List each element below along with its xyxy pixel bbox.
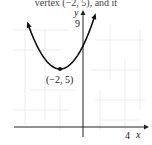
axes <box>14 10 149 137</box>
x-axis-label: x <box>135 129 141 140</box>
curve-right-arrow-icon <box>91 13 96 19</box>
vertex-label: (−2, 5) <box>46 74 73 86</box>
x-axis-arrow-icon <box>144 125 149 130</box>
vertex-point <box>58 67 62 71</box>
parabola-curve <box>28 15 95 69</box>
curve-left-arrow-icon <box>27 22 32 28</box>
y-axis-arrow-icon <box>81 10 86 15</box>
parabola-graph: vertex (−2, 5), and it y 9 x 4 (−2, 5) <box>0 0 152 145</box>
x-tick-label: 4 <box>125 130 130 141</box>
y-axis-label: y <box>73 7 79 18</box>
y-tick-label: 9 <box>75 18 80 29</box>
grid <box>14 25 145 130</box>
